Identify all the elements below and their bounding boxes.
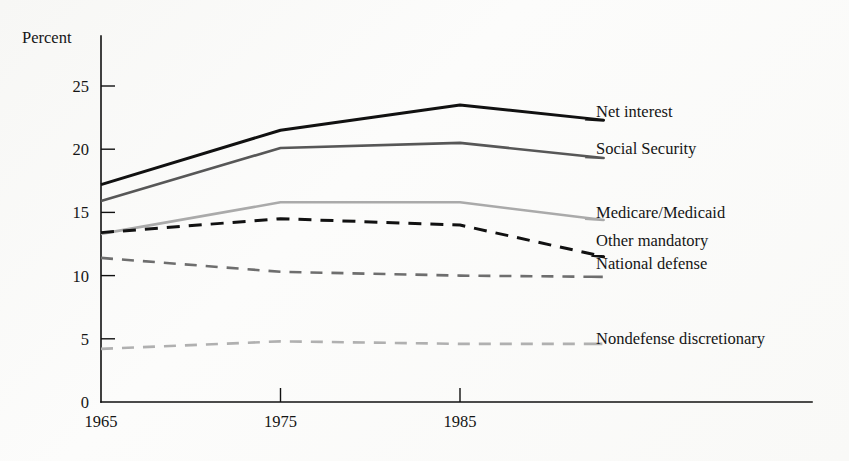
series-label-medicare-medicaid: Medicare/Medicaid bbox=[596, 203, 726, 222]
y-tick-label-0: 0 bbox=[81, 393, 89, 412]
y-tick-label-25: 25 bbox=[73, 77, 90, 96]
series-label-nondefense-discretionary: Nondefense discretionary bbox=[596, 329, 766, 348]
y-axis-label: Percent bbox=[22, 28, 72, 47]
series-line-nondefense-discretionary bbox=[101, 341, 604, 349]
x-tick-label-1975: 1975 bbox=[264, 412, 297, 431]
x-tick-label-1985: 1985 bbox=[444, 412, 477, 431]
y-tick-label-5: 5 bbox=[81, 330, 89, 349]
y-tick-label-10: 10 bbox=[73, 267, 90, 286]
line-chart: Percent 0510152025196519751985 Net inter… bbox=[0, 0, 849, 461]
series-labels-layer: Net interestSocial SecurityMedicare/Medi… bbox=[596, 102, 766, 347]
series-line-medicare-medicaid bbox=[101, 202, 604, 234]
series-line-national-defense bbox=[101, 258, 604, 277]
series-label-social-security: Social Security bbox=[596, 139, 697, 158]
series-line-other-mandatory bbox=[101, 219, 604, 257]
series-label-national-defense: National defense bbox=[596, 254, 707, 273]
series-label-other-mandatory: Other mandatory bbox=[596, 231, 709, 250]
x-tick-label-1965: 1965 bbox=[85, 412, 118, 431]
series-layer bbox=[101, 105, 604, 349]
chart-page: Percent 0510152025196519751985 Net inter… bbox=[0, 0, 849, 461]
series-label-net-interest: Net interest bbox=[596, 102, 673, 121]
y-tick-label-15: 15 bbox=[73, 203, 90, 222]
y-tick-label-20: 20 bbox=[73, 140, 90, 159]
series-line-social-security bbox=[101, 143, 604, 201]
